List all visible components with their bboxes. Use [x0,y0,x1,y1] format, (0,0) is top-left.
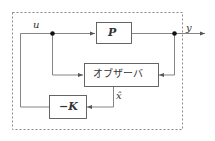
y-junction-dot [172,31,177,36]
x-hat-signal-line [87,87,114,108]
y-feedback-line [159,34,175,76]
u-signal-label: u [33,20,39,30]
u-junction-dot [50,31,55,36]
gain-block-label: −K [59,101,78,112]
observer-block-label: オブザーバ [93,69,143,79]
y-signal-label: y [186,23,192,33]
u-to-observer-line [53,34,84,76]
plant-block-label: P [108,27,116,38]
x-hat-signal-label: x̂ [116,91,122,101]
